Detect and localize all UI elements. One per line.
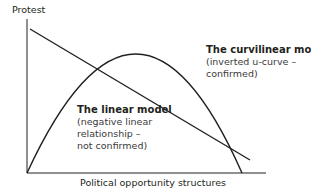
curvilinear-model-annotation: The curvilinear model (inverted u-curve … — [206, 44, 311, 80]
diagram-canvas — [0, 0, 311, 191]
linear-model-title: The linear model — [77, 104, 172, 116]
linear-model-desc-1: (negative linear — [77, 116, 172, 128]
curvilinear-model-title: The curvilinear model — [206, 44, 311, 56]
curvilinear-model-desc-1: (inverted u-curve – — [206, 56, 311, 68]
linear-model-desc-3: not confirmed) — [77, 140, 172, 152]
y-axis-label: Protest — [12, 4, 45, 16]
curvilinear-model-desc-2: confirmed) — [206, 68, 311, 80]
x-axis-label: Political opportunity structures — [80, 177, 226, 189]
linear-model-annotation: The linear model (negative linear relati… — [77, 104, 172, 152]
linear-model-desc-2: relationship – — [77, 128, 172, 140]
